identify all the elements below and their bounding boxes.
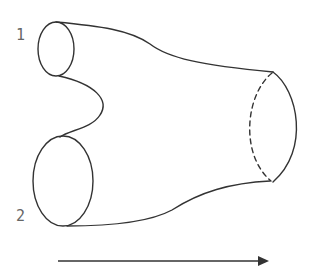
outlet-back-arc: [250, 73, 272, 181]
middle-wall: [59, 76, 103, 137]
inlet-2-label: 2: [16, 207, 25, 225]
flow-arrow: [58, 256, 269, 266]
inlet-1-label: 1: [16, 26, 25, 44]
arrowhead-icon: [258, 256, 269, 266]
top-wall: [56, 22, 273, 72]
bifurcation-diagram: 1 2: [0, 0, 323, 279]
inlet-2-cross-section: [33, 136, 93, 226]
inlet-1-cross-section: [38, 22, 74, 76]
bottom-wall: [67, 181, 270, 226]
outlet-front-arc: [273, 72, 296, 182]
